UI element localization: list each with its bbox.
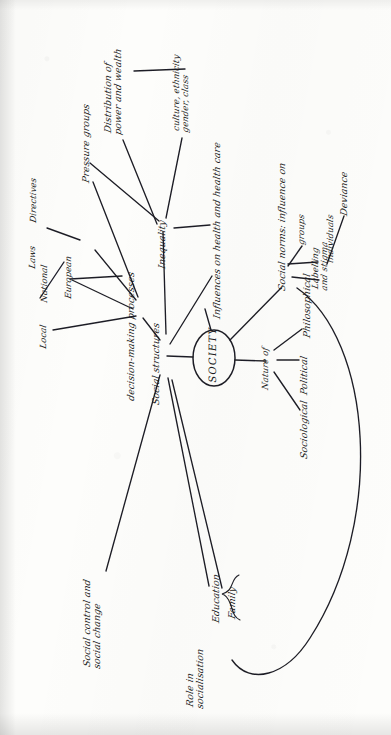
edge-structures-social-control <box>106 375 160 571</box>
node-role-socialisation-label: Role in socialisation <box>186 646 206 710</box>
node-pressure-groups-label: Pressure groups <box>82 103 92 184</box>
node-influences-health-label: Influences on health and health care <box>213 141 223 320</box>
node-social-control-label: Social control and social change <box>83 579 103 670</box>
node-social-norms-label: Social norms: influence on <box>278 162 288 292</box>
node-local-label: Local <box>40 324 49 349</box>
node-deviance-label: Deviance <box>340 171 350 217</box>
edge-inequality-pressure-groups <box>90 163 159 221</box>
edge-society-social-structures <box>167 356 193 357</box>
node-labelling-label: Labelling and stigma <box>312 239 330 291</box>
edge-nature-sociological <box>274 372 300 410</box>
mindmap-canvas <box>0 0 391 735</box>
node-distribution-label: Distribution of power and wealth <box>104 46 124 136</box>
edge-society-social-norms <box>230 288 281 340</box>
node-education-label: Education <box>212 573 222 624</box>
node-directives-label: Directives <box>30 177 39 223</box>
node-decision-making-label: decision-making processes <box>127 271 137 402</box>
node-european-label: European <box>65 255 74 299</box>
edge-norms-socialisation-curve <box>232 288 361 674</box>
edge-decision-local <box>53 316 136 330</box>
edge-inequality-influences <box>174 225 210 228</box>
edge-structures-education <box>168 378 209 586</box>
node-inequality-label: Inequality <box>158 219 168 270</box>
edge-inequality-distribution <box>123 140 157 224</box>
node-family-label: Family <box>228 586 238 620</box>
mindmap-page: SOCIETY Social structures decision-makin… <box>0 0 391 735</box>
node-sociological-label: Sociological <box>300 400 310 460</box>
node-philosophical-label: Philosophical <box>303 273 313 339</box>
node-national-label: National <box>41 264 50 303</box>
node-political-label: Political <box>300 355 310 396</box>
node-nature-of-label: Nature of <box>262 347 271 391</box>
node-social-structures-label: Social structures <box>152 322 162 406</box>
edge-nature-philosophical <box>274 329 302 350</box>
edge-structures-family <box>172 380 222 588</box>
edge-national-european-connector <box>70 276 122 279</box>
node-groups-label: groups <box>298 214 307 246</box>
edge-directives-european <box>47 228 80 240</box>
edge-inequality-culture <box>166 138 182 218</box>
node-culture-label: culture, ethnicity gender, class <box>173 54 191 134</box>
node-society-label: SOCIETY <box>208 326 219 384</box>
node-laws-label: Laws <box>29 245 38 269</box>
